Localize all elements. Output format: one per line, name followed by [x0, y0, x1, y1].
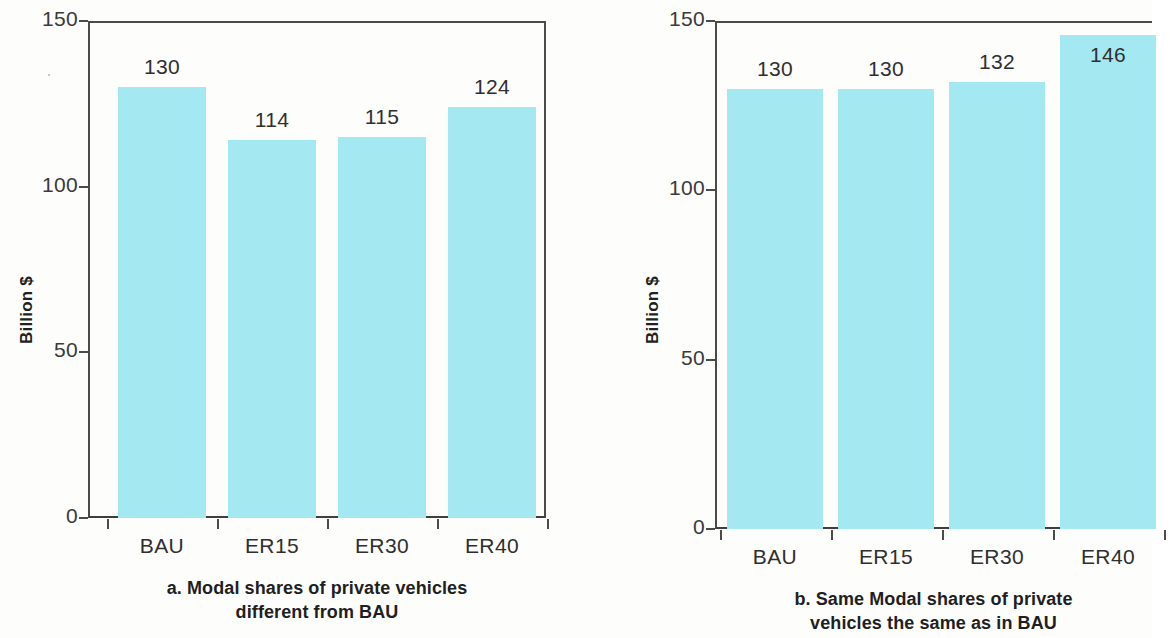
- bar: [118, 87, 206, 518]
- x-tick-label: ER30: [327, 534, 437, 558]
- bar-value-label: 130: [118, 55, 206, 79]
- y-tick-label: 50: [8, 338, 78, 362]
- bar: [949, 82, 1045, 529]
- bar-value-label: 115: [338, 105, 426, 129]
- bar-value-label: 130: [727, 57, 823, 81]
- x-tick-mark: [1053, 530, 1055, 540]
- x-tick-label: BAU: [716, 545, 834, 569]
- panel-caption-b-line1: b. Same Modal shares of private: [675, 587, 1170, 611]
- bar: [838, 89, 934, 529]
- bar-value-label: 124: [448, 75, 536, 99]
- y-tick-label: 100: [8, 173, 78, 197]
- bar-value-label: 114: [228, 108, 316, 132]
- bar: [448, 107, 536, 518]
- chart-panel-b: Billion $ 050100150 130130132146 BAUER15…: [576, 0, 1152, 638]
- x-tick-mark: [720, 530, 722, 540]
- y-tick-label: 0: [635, 515, 705, 539]
- scan-speck: [48, 74, 50, 76]
- bar: [727, 89, 823, 529]
- x-tick-mark: [107, 519, 109, 529]
- bar-value-label: 146: [1060, 43, 1156, 67]
- x-tick-mark: [831, 530, 833, 540]
- x-tick-mark: [217, 519, 219, 529]
- panel-caption-a: a. Modal shares of private vehicles diff…: [48, 576, 586, 625]
- y-tick-mark: [706, 359, 715, 361]
- x-tick-mark: [942, 530, 944, 540]
- panel-caption-a-line2: different from BAU: [48, 600, 586, 624]
- x-tick-label: BAU: [107, 534, 217, 558]
- y-tick-mark: [706, 189, 715, 191]
- x-tick-label: ER40: [1049, 545, 1167, 569]
- x-tick-label: ER30: [938, 545, 1056, 569]
- bar-value-label: 132: [949, 50, 1045, 74]
- bar-value-label: 130: [838, 57, 934, 81]
- y-tick-mark: [79, 186, 88, 188]
- panel-caption-a-line1: a. Modal shares of private vehicles: [48, 576, 586, 600]
- bar: [1060, 35, 1156, 529]
- y-tick-label: 150: [8, 7, 78, 31]
- x-tick-label: ER15: [217, 534, 327, 558]
- y-tick-mark: [79, 20, 88, 22]
- panel-caption-b: b. Same Modal shares of private vehicles…: [675, 587, 1170, 636]
- y-tick-mark: [79, 517, 88, 519]
- x-tick-mark: [327, 519, 329, 529]
- x-tick-label: ER40: [437, 534, 547, 558]
- y-tick-label: 50: [635, 346, 705, 370]
- x-tick-mark: [1164, 530, 1166, 540]
- x-tick-mark: [547, 519, 549, 529]
- x-tick-mark: [437, 519, 439, 529]
- y-tick-label: 150: [635, 7, 705, 31]
- bar: [338, 137, 426, 518]
- y-tick-mark: [706, 528, 715, 530]
- y-tick-mark: [79, 351, 88, 353]
- y-tick-label: 0: [8, 504, 78, 528]
- y-tick-mark: [706, 20, 715, 22]
- y-axis-title-b: Billion $: [643, 265, 663, 355]
- x-tick-label: ER15: [827, 545, 945, 569]
- bar: [228, 140, 316, 518]
- y-tick-label: 100: [635, 176, 705, 200]
- panel-caption-b-line2: vehicles the same as in BAU: [675, 611, 1170, 635]
- chart-panel-a: Billion $ 050100150 130114115124 BAUER15…: [0, 0, 576, 638]
